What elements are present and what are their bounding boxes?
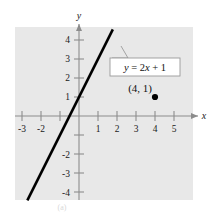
point-label-4-1: (4, 1) [128,82,152,95]
y-axis-name: y [76,10,82,21]
x-tick-label--2: -2 [37,124,45,134]
y-tick-label--3: -3 [62,169,70,179]
graph-figure: -3 -2 1 2 3 4 5 4 3 2 1 -2 -3 -4 x y y =… [0,0,214,213]
x-tick-label-2: 2 [115,124,120,134]
y-tick-label--4: -4 [62,188,70,198]
y-tick-label-3: 3 [65,54,70,64]
equation-callout-text: y = 2x + 1 [123,62,166,73]
x-tick-label-5: 5 [172,124,177,134]
point-marker-dot [152,94,158,100]
figure-caption: (a) [58,203,67,212]
y-tick-label-4: 4 [65,35,70,45]
x-tick-label-3: 3 [134,124,139,134]
y-tick-label--2: -2 [62,150,70,160]
x-axis-arrow-icon [191,113,198,119]
x-tick-label--3: -3 [18,124,26,134]
y-tick-label-2: 2 [65,73,70,83]
y-tick-label-1: 1 [65,92,70,102]
equation-operator: = 2 [129,62,145,73]
coordinate-plane-svg: -3 -2 1 2 3 4 5 4 3 2 1 -2 -3 -4 x y y =… [0,0,214,213]
x-tick-label-4: 4 [153,124,158,134]
x-axis-name: x [201,110,207,121]
x-tick-label-1: 1 [96,124,101,134]
equation-constant: + 1 [150,62,166,73]
